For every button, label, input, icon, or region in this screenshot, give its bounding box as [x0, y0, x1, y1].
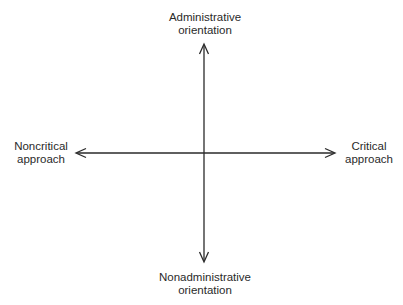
- label-line: orientation: [135, 284, 275, 297]
- label-line: approach: [8, 153, 74, 166]
- label-line: Administrative: [140, 11, 270, 24]
- label-critical-approach: Critical approach: [338, 140, 400, 166]
- label-line: orientation: [140, 24, 270, 37]
- horizontal-axis: [76, 149, 335, 158]
- label-noncritical-approach: Noncritical approach: [8, 140, 74, 166]
- label-line: approach: [338, 153, 400, 166]
- label-administrative-orientation: Administrative orientation: [140, 11, 270, 37]
- label-line: Nonadministrative: [135, 271, 275, 284]
- label-line: Noncritical: [8, 140, 74, 153]
- label-line: Critical: [338, 140, 400, 153]
- label-nonadministrative-orientation: Nonadministrative orientation: [135, 271, 275, 297]
